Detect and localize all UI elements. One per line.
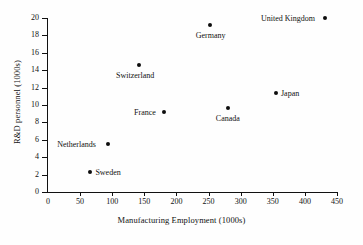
x-tick-label: 350	[267, 198, 279, 206]
data-point[interactable]	[162, 110, 166, 114]
data-point[interactable]	[274, 91, 278, 95]
x-tick	[241, 192, 242, 196]
data-point[interactable]	[208, 23, 212, 27]
data-point[interactable]	[106, 142, 110, 146]
x-tick-label: 0	[46, 198, 50, 206]
x-tick-label: 100	[106, 198, 118, 206]
y-tick	[42, 140, 47, 141]
data-point-label: France	[134, 108, 156, 117]
x-tick-label: 200	[170, 198, 182, 206]
data-point-label: Switzerland	[116, 71, 154, 80]
data-point[interactable]	[88, 170, 92, 174]
y-tick-label: 10	[31, 101, 39, 109]
y-tick-label: 4	[35, 153, 39, 161]
x-tick-label: 50	[76, 198, 84, 206]
scatter-chart: 02468101214161820 0501001502002503003504…	[0, 0, 363, 245]
data-point[interactable]	[226, 106, 230, 110]
x-tick	[273, 192, 274, 196]
y-tick-label: 16	[31, 49, 39, 57]
x-tick	[112, 192, 113, 196]
y-tick-label: 12	[31, 84, 39, 92]
y-tick	[42, 53, 47, 54]
x-tick	[80, 192, 81, 196]
x-axis-title: Manufacturing Employment (1000s)	[0, 215, 363, 225]
x-tick-label: 400	[299, 198, 311, 206]
y-tick	[42, 35, 47, 36]
x-tick	[337, 192, 338, 196]
y-tick	[42, 192, 47, 193]
data-point-label: Japan	[281, 89, 299, 98]
y-tick-label: 8	[35, 118, 39, 126]
data-point-label: Sweden	[95, 168, 120, 177]
data-point-label: Netherlands	[57, 140, 96, 149]
data-point-label: Germany	[196, 31, 226, 40]
x-tick-label: 300	[235, 198, 247, 206]
y-axis-title: R&D personnel (1000s)	[12, 22, 22, 182]
y-tick	[42, 157, 47, 158]
y-tick	[42, 175, 47, 176]
data-point-label: United Kingdom	[261, 14, 315, 23]
y-tick-label: 0	[35, 188, 39, 196]
y-tick-label: 2	[35, 171, 39, 179]
y-tick-label: 6	[35, 136, 39, 144]
y-tick-label: 18	[31, 31, 39, 39]
y-tick-label: 20	[31, 14, 39, 22]
x-tick-label: 250	[203, 198, 215, 206]
data-point[interactable]	[323, 16, 327, 20]
y-tick	[42, 70, 47, 71]
x-tick-label: 450	[331, 198, 343, 206]
y-tick	[42, 88, 47, 89]
x-axis-line	[47, 192, 337, 193]
y-tick	[42, 18, 47, 19]
y-axis-line	[47, 18, 48, 193]
y-tick	[42, 122, 47, 123]
x-tick-label: 150	[138, 198, 150, 206]
x-tick	[209, 192, 210, 196]
x-tick	[144, 192, 145, 196]
y-tick-label: 14	[31, 66, 39, 74]
x-tick	[305, 192, 306, 196]
data-point-label: Canada	[216, 114, 240, 123]
y-tick	[42, 105, 47, 106]
x-tick	[176, 192, 177, 196]
data-point[interactable]	[137, 63, 141, 67]
